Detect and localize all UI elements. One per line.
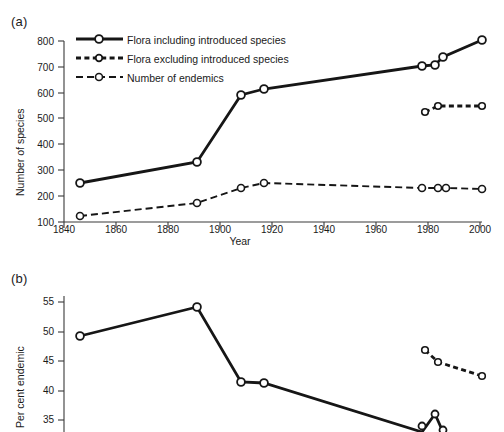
panel-a-legend-key-dashed-thin bbox=[76, 74, 123, 81]
panel-a-series-flora-excluding bbox=[422, 103, 486, 116]
panel-b-y-ticks bbox=[58, 302, 64, 420]
panel-b: (b) Per cent endemic 35 40 45 50 55 bbox=[0, 250, 504, 432]
panel-a-series-endemics bbox=[77, 180, 486, 220]
panel-b-series-percent-excluding bbox=[422, 347, 486, 380]
figure-root: (a) Number of species Year 100 200 300 4… bbox=[0, 0, 504, 432]
panel-a-plot bbox=[0, 0, 504, 250]
panel-a-legend-key-solid bbox=[76, 35, 123, 43]
panel-b-series-percent-including bbox=[76, 303, 482, 432]
panel-a-y-ticks bbox=[58, 41, 64, 222]
panel-a-x-ticks bbox=[64, 222, 480, 228]
panel-b-plot bbox=[0, 250, 504, 432]
panel-a: (a) Number of species Year 100 200 300 4… bbox=[0, 0, 504, 250]
panel-a-legend-key-dashed-thick bbox=[76, 55, 123, 62]
